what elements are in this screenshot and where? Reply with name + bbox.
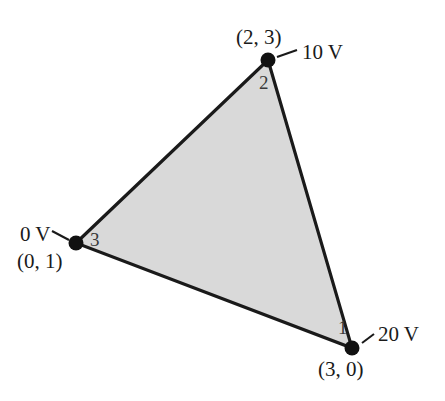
coordinate-label-node-2: (2, 3) — [236, 27, 282, 48]
vertex-dot-node-3 — [69, 236, 84, 251]
vertex-dot-node-1 — [345, 341, 360, 356]
coordinate-label-node-1: (3, 0) — [318, 359, 364, 380]
coordinate-label-node-3: (0, 1) — [17, 251, 63, 272]
node-number-label-3: 3 — [90, 230, 100, 249]
figure-canvas: (2, 3) 10 V 2 (0, 1) 0 V 3 (3, 0) 20 V 1 — [0, 0, 445, 401]
potential-label-node-2: 10 V — [302, 42, 343, 63]
potential-label-node-1: 20 V — [378, 324, 419, 345]
node-number-label-1: 1 — [338, 318, 348, 337]
leader-line-node-1 — [362, 334, 374, 343]
potential-label-node-3: 0 V — [20, 224, 51, 245]
node-number-label-2: 2 — [259, 73, 269, 92]
vertex-dot-node-2 — [261, 53, 276, 68]
leader-line-node-2 — [277, 50, 297, 57]
leader-line-node-3 — [52, 231, 69, 240]
